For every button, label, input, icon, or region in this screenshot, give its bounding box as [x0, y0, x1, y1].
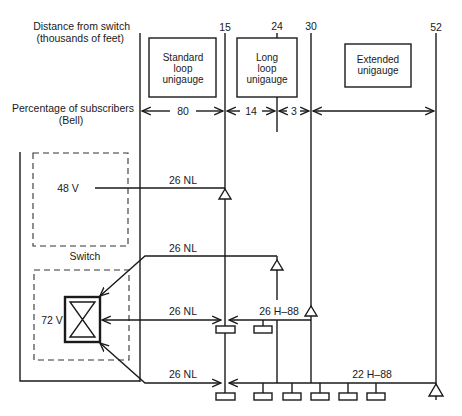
load-coils-bottom — [216, 383, 385, 400]
zone-long-line2: loop — [258, 63, 277, 74]
switch-48v-box — [33, 153, 128, 246]
cable-4 — [100, 343, 221, 383]
cable-4-label: 26 NL — [169, 368, 197, 380]
voltage-72-label: 72 V — [41, 314, 63, 326]
percentage-label: Percentage of subscribers — [12, 102, 134, 114]
switch-frame — [20, 152, 140, 381]
hourglass-icon — [70, 302, 95, 337]
cable-2-label: 26 NL — [169, 242, 197, 254]
tick-24: 24 — [271, 20, 283, 32]
pct-80: 80 — [177, 105, 189, 117]
cable-3-label: 26 NL — [169, 305, 197, 317]
terminal-triangle-52 — [429, 384, 443, 396]
zone-long-line1: Long — [256, 52, 278, 63]
cable-2 — [100, 256, 277, 296]
cable-1-label: 26 NL — [169, 174, 197, 186]
distance-units-label: (thousands of feet) — [36, 32, 124, 44]
pct-3: 3 — [291, 105, 297, 117]
terminal-triangle-30 — [305, 306, 317, 316]
zone-standard-line3: unigauge — [162, 74, 204, 85]
distance-label: Distance from switch — [33, 20, 130, 32]
tick-52: 52 — [430, 21, 442, 33]
cable-h88-22-label: 22 H–88 — [352, 368, 392, 380]
cable-h88-26-label: 26 H–88 — [259, 305, 299, 317]
zone-extended-line1: Extended — [357, 54, 399, 65]
percentage-source-label: (Bell) — [59, 114, 84, 126]
load-coil-15 — [216, 326, 235, 333]
terminal-triangle-15 — [219, 189, 231, 199]
switch-label: Switch — [70, 250, 101, 262]
zone-standard-line2: loop — [174, 63, 193, 74]
zone-long-line3: unigauge — [246, 74, 288, 85]
zone-extended-line2: unigauge — [357, 65, 399, 76]
tick-15: 15 — [219, 21, 231, 33]
tick-30: 30 — [305, 20, 317, 32]
load-coil-21 — [254, 326, 272, 333]
pct-14: 14 — [245, 105, 257, 117]
terminal-triangle-24 — [271, 260, 283, 270]
loop-plan-diagram: Distance from switch (thousands of feet)… — [0, 0, 462, 416]
zone-standard-line1: Standard — [163, 52, 204, 63]
voltage-48-label: 48 V — [57, 182, 79, 194]
